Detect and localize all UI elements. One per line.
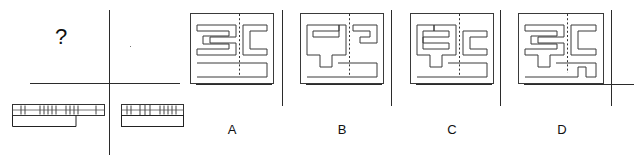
divider-after-option-a bbox=[282, 10, 283, 106]
divider-after-option-c bbox=[500, 10, 501, 106]
baseline-option-d bbox=[524, 84, 604, 85]
given-figure-left bbox=[8, 101, 108, 131]
baseline-option-c bbox=[416, 84, 492, 85]
option-d[interactable] bbox=[516, 11, 608, 91]
figure-canvas: ? bbox=[0, 0, 634, 163]
question-mark: ? bbox=[55, 26, 67, 48]
option-d-label: D bbox=[552, 123, 572, 136]
divider-after-option-d bbox=[611, 10, 612, 106]
baseline-option-a bbox=[196, 84, 272, 85]
stray-dot bbox=[130, 46, 131, 47]
option-a-label: A bbox=[222, 123, 242, 136]
baseline-right-tail bbox=[604, 84, 634, 85]
option-a[interactable] bbox=[188, 11, 278, 91]
option-c[interactable] bbox=[408, 11, 498, 91]
baseline-question bbox=[30, 83, 180, 84]
divider-after-option-b bbox=[391, 10, 392, 106]
given-figure-right bbox=[118, 101, 188, 131]
option-b[interactable] bbox=[298, 11, 388, 91]
baseline-option-b bbox=[306, 84, 382, 85]
option-b-label: B bbox=[332, 123, 352, 136]
option-c-label: C bbox=[442, 123, 462, 136]
